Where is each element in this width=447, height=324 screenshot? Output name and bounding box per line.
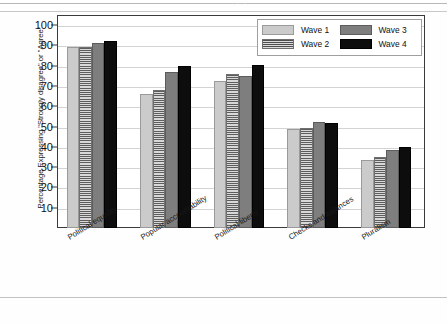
gridline [58,67,424,68]
gridline [58,188,424,189]
legend-item: Wave 4 [340,39,418,49]
y-tick-label: 60 [27,100,53,112]
y-tick-label: 20 [27,181,53,193]
legend-item: Wave 1 [262,25,340,35]
page-top-rule-secondary [0,11,447,12]
y-tick-label: 10 [27,202,53,214]
gridline [58,128,424,129]
legend-swatch-solid-medium-gray [340,25,372,35]
gridline [58,168,424,169]
y-tick-label: 30 [27,161,53,173]
gridline [58,148,424,149]
legend-label: Wave 2 [301,39,329,49]
y-tick-label: 70 [27,80,53,92]
legend-label: Wave 3 [379,25,407,35]
legend-row: Wave 1Wave 3 [262,23,417,37]
page-top-rule [0,3,447,4]
legend-item: Wave 3 [340,25,418,35]
legend-label: Wave 4 [379,39,407,49]
y-tick-label: 80 [27,60,53,72]
legend-label: Wave 1 [301,25,329,35]
y-tick-label: 90 [27,39,53,51]
gridline [58,87,424,88]
legend-swatch-solid-light-gray [262,25,294,35]
page-bottom-rule [0,297,447,298]
gridline [58,107,424,108]
legend-row: Wave 2Wave 4 [262,37,417,51]
legend-item: Wave 2 [262,39,340,49]
scan-artifact-text: · · [236,0,248,5]
y-tick-label: 40 [27,141,53,153]
y-tick-label: 50 [27,121,53,133]
legend-swatch-solid-black [340,39,372,49]
legend-swatch-horizontal-stripes [262,39,294,49]
y-tick-label: 100 [27,19,53,31]
chart-legend: Wave 1Wave 3Wave 2Wave 4 [257,19,422,56]
